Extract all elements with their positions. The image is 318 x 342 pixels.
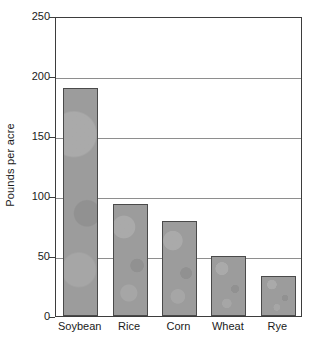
x-axis-tick-labels: SoybeanRiceCornWheatRye (55, 320, 302, 340)
bar-chart: Pounds per acre 050100150200250 SoybeanR… (0, 0, 318, 342)
y-tick-mark (49, 257, 55, 258)
y-tick-label: 50 (20, 251, 50, 262)
x-tick-label: Soybean (55, 320, 104, 333)
y-tick-label: 100 (20, 191, 50, 202)
y-tick-mark (49, 77, 55, 78)
plot-area (55, 17, 302, 317)
x-tick-label: Wheat (203, 320, 252, 333)
bars-layer (56, 18, 301, 316)
y-tick-label: 150 (20, 131, 50, 142)
y-tick-mark (49, 317, 55, 318)
y-tick-label: 200 (20, 71, 50, 82)
x-tick-label: Rice (104, 320, 153, 333)
x-tick-label: Rye (253, 320, 302, 333)
y-tick-mark (49, 137, 55, 138)
y-tick-label: 250 (20, 11, 50, 22)
y-axis-title: Pounds per acre (0, 0, 20, 330)
y-tick-label: 0 (20, 311, 50, 322)
y-tick-mark (49, 197, 55, 198)
y-tick-mark (49, 17, 55, 18)
bar (261, 276, 296, 316)
bar (113, 204, 148, 316)
bar (162, 221, 197, 316)
x-tick-label: Corn (154, 320, 203, 333)
bar (211, 256, 246, 316)
bar (63, 88, 98, 316)
y-axis-title-label: Pounds per acre (4, 123, 16, 207)
y-axis-tick-labels: 050100150200250 (20, 0, 50, 342)
